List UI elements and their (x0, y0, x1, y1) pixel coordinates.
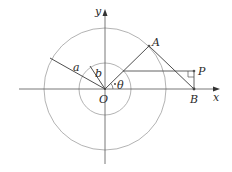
y-axis-arrow-icon (103, 9, 108, 16)
segment-oa (105, 46, 149, 89)
angle-theta-dot (114, 83, 116, 85)
label-origin: O (99, 93, 108, 106)
label-x-axis: x (213, 91, 220, 104)
diagram-canvas: y x O A B P a b θ (0, 0, 232, 172)
label-point-p: P (197, 65, 206, 78)
label-radius-b: b (95, 67, 102, 80)
label-point-a: A (151, 36, 160, 49)
label-point-b: B (189, 93, 198, 106)
label-y-axis: y (94, 5, 102, 18)
segment-ab (149, 46, 194, 89)
label-angle-theta: θ (117, 79, 124, 92)
angle-theta-arc (111, 83, 113, 89)
point-a (148, 45, 151, 48)
point-p (193, 70, 196, 73)
label-radius-a: a (73, 61, 80, 74)
point-b (193, 88, 196, 91)
point-o (104, 88, 106, 90)
